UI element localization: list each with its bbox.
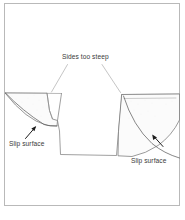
label-sides-too-steep: Sides too steep <box>62 53 109 61</box>
figure-root: Sides too steep Slip surface Slip surfac… <box>0 0 185 220</box>
diagram-canvas: Sides too steep Slip surface Slip surfac… <box>0 0 185 220</box>
arrow-slip-surface-left <box>26 126 37 139</box>
label-slip-surface-left: Slip surface <box>9 140 45 148</box>
leader-line-right <box>102 65 121 93</box>
excavation-trench-outline <box>58 94 123 156</box>
slip-block-left <box>6 93 58 126</box>
label-slip-surface-right: Slip surface <box>131 157 167 165</box>
caption-ghost-text <box>6 209 180 218</box>
leader-line-left <box>52 65 68 93</box>
slip-block-right <box>118 94 180 157</box>
